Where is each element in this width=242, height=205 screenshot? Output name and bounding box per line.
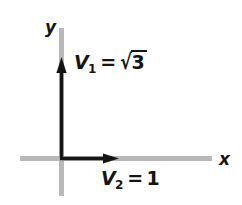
vector-v2-symbol: V	[101, 167, 116, 189]
vector-v1-radicand: 3	[131, 50, 147, 72]
vector-diagram-figure: y x V1=√3 V2=1	[0, 0, 242, 205]
vector-v2-subscript: 2	[115, 178, 123, 192]
vector-v1-symbol: V	[74, 51, 89, 73]
x-axis-label: x	[219, 151, 230, 168]
vector-v2-value: 1	[146, 167, 159, 189]
vector-v2-equals: =	[127, 167, 143, 189]
vector-v1-equals: =	[100, 51, 116, 73]
radical-sign-icon: √	[120, 52, 132, 73]
y-axis-label: y	[45, 19, 56, 36]
vector-v2-arrowhead	[103, 153, 119, 163]
vector-v2-label: V2=1	[101, 169, 160, 191]
vector-v1-radical: √3	[119, 50, 147, 73]
vector-v1-subscript: 1	[88, 62, 96, 76]
vector-v1-label: V1=√3	[74, 50, 147, 75]
vector-v1-arrowhead	[56, 57, 66, 73]
